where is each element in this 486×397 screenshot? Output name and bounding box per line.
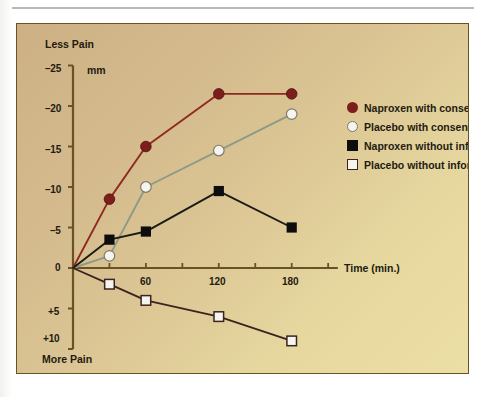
legend-item-placebo-without-information[interactable]: Placebo without information — [347, 155, 469, 174]
legend-label: Placebo with consent — [364, 121, 469, 133]
y-tick-label--15: –15 — [45, 144, 61, 155]
page-top-rule — [12, 7, 474, 9]
y-tick-label--25: –25 — [45, 63, 61, 74]
open-circle-icon — [347, 121, 358, 132]
filled-square-icon — [347, 140, 358, 151]
plot-svg — [17, 24, 469, 374]
y-tick-label--5: –5 — [50, 225, 61, 236]
x-axis-label: Time (min.) — [344, 262, 400, 274]
legend-label: Naproxen with consent — [364, 102, 469, 114]
y-tick-label--10: –10 — [45, 184, 61, 195]
less-pain-caption: Less Pain — [45, 38, 94, 50]
y-tick-label--20: –20 — [45, 103, 61, 114]
x-tick-label-60: 60 — [140, 276, 151, 287]
y-tick-label-+10: +10 — [43, 333, 59, 344]
page-left-edge — [0, 0, 12, 397]
legend-label: Placebo without information — [364, 159, 469, 171]
legend-item-naproxen-with-consent[interactable]: Naproxen with consent — [347, 98, 469, 117]
pain-over-time-chart: –25 –20 –15 –10 –5 0 +5 +10 mm Less Pain… — [16, 23, 469, 374]
plot-area — [17, 24, 468, 373]
legend-label: Naproxen without informatio — [364, 140, 469, 152]
chart-legend: Naproxen with consent Placebo with conse… — [347, 98, 469, 174]
x-tick-label-180: 180 — [282, 276, 299, 287]
y-tick-label-0: 0 — [55, 262, 60, 273]
legend-item-placebo-with-consent[interactable]: Placebo with consent — [347, 117, 469, 136]
legend-item-naproxen-without-information[interactable]: Naproxen without informatio — [347, 136, 469, 155]
more-pain-caption: More Pain — [42, 353, 92, 365]
y-tick-label-+5: +5 — [48, 306, 59, 317]
filled-circle-icon — [347, 102, 358, 113]
y-axis-unit-label: mm — [87, 64, 106, 76]
open-square-icon — [347, 159, 358, 170]
x-tick-label-120: 120 — [209, 276, 226, 287]
